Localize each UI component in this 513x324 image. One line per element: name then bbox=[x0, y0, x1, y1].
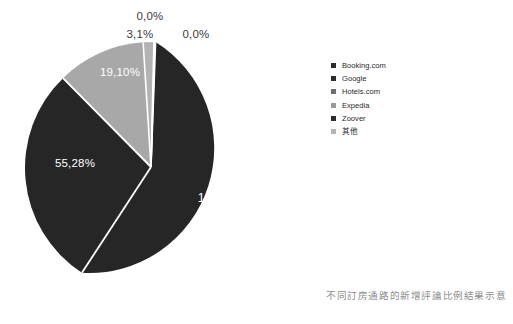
legend-label-hotels: Hotels.com bbox=[342, 85, 380, 98]
legend-label-expedia: Expedia bbox=[342, 99, 369, 112]
legend-item-expedia[interactable]: Expedia bbox=[331, 99, 451, 112]
chart-legend: Booking.com Google Hotels.com Expedia Zo… bbox=[331, 59, 451, 138]
legend-swatch-expedia bbox=[331, 103, 336, 108]
legend-item-other[interactable]: 其他 bbox=[331, 125, 451, 138]
legend-item-booking[interactable]: Booking.com bbox=[331, 59, 451, 72]
slice-label-google: 0,0% bbox=[136, 10, 163, 22]
slice-label-hotels: 0,0% bbox=[182, 28, 209, 40]
legend-swatch-hotels bbox=[331, 89, 336, 94]
legend-item-hotels[interactable]: Hotels.com bbox=[331, 85, 451, 98]
legend-swatch-other bbox=[331, 129, 336, 134]
legend-swatch-zoover bbox=[331, 116, 336, 121]
legend-label-zoover: Zoover bbox=[342, 112, 366, 125]
pie-chart: 0,0% 3,1% 0,0% 19,10% 55,28% 122,61% bbox=[0, 0, 513, 324]
legend-item-google[interactable]: Google bbox=[331, 72, 451, 85]
legend-item-zoover[interactable]: Zoover bbox=[331, 112, 451, 125]
slice-label-zoover: 19,10% bbox=[100, 66, 140, 78]
chart-caption: 不同訂房通路的新增評論比例結果示意 bbox=[326, 288, 506, 302]
slice-label-other: 55,28% bbox=[55, 157, 95, 169]
legend-swatch-google bbox=[331, 76, 336, 81]
legend-label-google: Google bbox=[342, 72, 367, 85]
legend-label-booking: Booking.com bbox=[342, 59, 386, 72]
chart-stage: 0,0% 3,1% 0,0% 19,10% 55,28% 122,61% Boo… bbox=[0, 0, 513, 324]
slice-label-booking: 122,61% bbox=[198, 191, 249, 205]
slice-label-expedia: 3,1% bbox=[126, 28, 153, 40]
legend-swatch-booking bbox=[331, 63, 336, 68]
legend-label-other: 其他 bbox=[342, 125, 358, 138]
